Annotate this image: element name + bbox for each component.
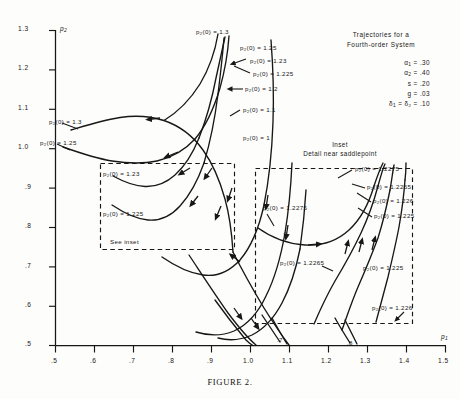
legend-param-row: α1 = .30 xyxy=(316,58,430,68)
legend-param-row: g = .03 xyxy=(316,89,430,99)
y-axis-ticks xyxy=(49,31,56,346)
y-tick-label: .8 xyxy=(25,222,32,230)
x-tick-label: 1.5 xyxy=(438,357,449,365)
figure-container: 1.3 1.2 1.1 1.0 .9 .8 .7 .6 .5 .5 .6 .7 … xyxy=(0,0,460,399)
label-inset-1226: p₂(0) = 1.226 xyxy=(373,197,414,205)
param-value: = .30 xyxy=(414,59,430,66)
annot-point-8: .8 xyxy=(347,339,353,347)
label-left-13: p₂(0) = 1.3 xyxy=(49,118,82,126)
annot-point-7: .7 xyxy=(277,336,283,344)
arrow-12 xyxy=(345,242,348,254)
label-top-13: p₂(0) = 1.3 xyxy=(196,28,229,36)
curve-inset-1p2275 xyxy=(258,186,374,245)
curve-p2-1p3-top xyxy=(164,34,218,121)
x-axis-label-sub: 1 xyxy=(445,335,448,341)
inset-title-line1: Inset xyxy=(270,140,410,149)
label-inset-12275: p₂(0) = 1.2275 xyxy=(355,165,399,173)
curve-p2-1p2 xyxy=(162,205,264,275)
x-tick-label: .9 xyxy=(207,357,214,365)
label-top-123: p₂(0) = 1.23 xyxy=(250,57,287,65)
param-value: = δ₂ = .10 xyxy=(398,100,430,107)
label-inset-12265: p₂(0) = 1.2265 xyxy=(367,183,411,191)
y-tick-label: 1.0 xyxy=(18,143,29,151)
x-tick-label: 1.2 xyxy=(321,357,332,365)
x-tick-label: .8 xyxy=(168,357,175,365)
leader-top-11 xyxy=(230,110,240,116)
leader-box-1226 xyxy=(396,312,404,320)
legend-title-line2: Fourth-order System xyxy=(316,40,446,50)
label-top-11: p₂(0) = 1.1 xyxy=(243,106,276,114)
curve-p2-1-top xyxy=(300,190,306,249)
curve-inset-1p225-up xyxy=(405,163,406,180)
param-symbol: s xyxy=(408,80,412,87)
curve-p2-1p25 xyxy=(63,139,195,163)
x-tick-label: .5 xyxy=(51,357,58,365)
param-sub: 1 xyxy=(408,62,411,67)
legend-param-row: s = .20 xyxy=(316,79,430,89)
label-box-123: p₂(0) = 1.23 xyxy=(103,170,140,178)
leader-box-12275 xyxy=(267,214,274,226)
label-top-125: p₂(0) = 1.25 xyxy=(240,44,277,52)
curve-p2-1p1-top xyxy=(285,163,292,233)
y-tick-label: .7 xyxy=(25,262,32,270)
label-box-r-1226: p₂(0) = 1.226 xyxy=(372,304,413,312)
leader-inset-12265 xyxy=(352,184,365,188)
figure-caption: FIGURE 2. xyxy=(0,377,460,387)
y-tick-label: .6 xyxy=(25,301,32,309)
param-value: = .03 xyxy=(414,90,430,97)
param-symbol: g xyxy=(407,90,411,97)
y-tick-label: 1.3 xyxy=(18,25,29,33)
leader-top-1225 xyxy=(234,66,250,73)
label-box-12265: p₂(0) = 1.2265 xyxy=(280,259,324,267)
strand-b xyxy=(189,255,256,345)
see-inset-label: See inset xyxy=(110,238,139,246)
param-sub: 2 xyxy=(408,72,411,77)
curve-p2-1p2-top xyxy=(264,40,273,205)
x-tick-label: .6 xyxy=(90,357,97,365)
inset-title-line2: Detail near saddlepoint xyxy=(270,149,410,158)
arrow-6 xyxy=(216,206,221,218)
curve-p2-1p25-top xyxy=(195,36,229,139)
y-tick-label: 1.2 xyxy=(18,64,29,72)
label-box-12275: p₂(0) = 1.2275 xyxy=(263,204,307,212)
leader-inset-1226 xyxy=(357,193,371,202)
label-left-125: p₂(0) = 1.25 xyxy=(40,139,77,147)
x-tick-label: 1.3 xyxy=(360,357,371,365)
x-axis-ticks xyxy=(56,346,446,353)
curve-p2-1p23-top xyxy=(199,37,225,138)
curve-inset-1p2265 xyxy=(314,186,378,324)
y-tick-label: 1.1 xyxy=(18,104,29,112)
arrow-15 xyxy=(234,308,241,318)
y-axis-label-sub: 2 xyxy=(64,27,67,33)
label-top-1225: p₂(0) = 1.225 xyxy=(253,70,294,78)
y-tick-label: .9 xyxy=(25,183,32,191)
x-tick-label: 1.0 xyxy=(243,357,254,365)
right-inset-box xyxy=(256,169,413,324)
y-axis-label: p2 xyxy=(60,25,67,33)
leader-top-123 xyxy=(232,59,246,64)
param-sub: 1 xyxy=(393,103,396,108)
x-tick-label: 1.4 xyxy=(399,357,410,365)
caption-text: FIGURE 2. xyxy=(207,377,252,387)
param-value: = .40 xyxy=(414,69,430,76)
x-axis-label: p1 xyxy=(441,333,448,341)
arrow-13 xyxy=(359,240,362,252)
legend-title-line1: Trajectories for a xyxy=(316,30,446,40)
arrow-5 xyxy=(205,168,212,178)
x-tick-label: 1.1 xyxy=(282,357,293,365)
arrow-7 xyxy=(228,188,232,200)
legend-param-row: α2 = .40 xyxy=(316,68,430,78)
y-tick-label: .5 xyxy=(25,340,32,348)
legend-param-row: δ1 = δ₂ = .10 xyxy=(316,99,430,109)
param-value: = .20 xyxy=(414,80,430,87)
arrow-4 xyxy=(191,196,198,205)
label-top-1: p₂(0) = 1 xyxy=(243,134,270,142)
label-top-12: p₂(0) = 1.2 xyxy=(245,85,278,93)
curve-p2-1p3 xyxy=(71,116,233,252)
leader-box-12265 xyxy=(322,266,333,271)
legend-title: Trajectories for a Fourth-order System xyxy=(316,30,446,50)
leader-inset-12275 xyxy=(338,170,352,178)
label-inset-1225: p₂(0) = 1.225 xyxy=(374,212,415,220)
legend-parameters: α1 = .30 α2 = .40 s = .20 g = .03 δ1 = δ… xyxy=(316,58,430,110)
x-tick-label: .7 xyxy=(129,357,136,365)
